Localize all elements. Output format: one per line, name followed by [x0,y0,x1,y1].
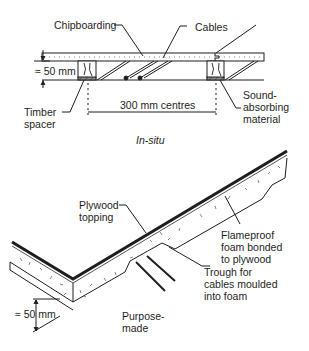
timber-spacer-left [78,61,96,78]
caption-purpose-line1: Purpose- [122,310,165,322]
cables-icon [124,61,172,80]
label-timber-spacer-line2: spacer [24,118,56,130]
label-foam-line3: to plywood [221,253,282,265]
label-centres: 300 mm centres [120,99,195,111]
label-sound-line2: absorbing [243,101,289,113]
label-trough-line3: into foam [204,290,278,302]
label-plywood-line2: topping [79,211,119,223]
label-sound-line3: material [243,113,289,125]
label-trough-line2: cables moulded [204,278,278,290]
label-timber-spacer-line1: Timber [24,106,56,118]
label-sound-absorbing: Sound- absorbing material [243,89,289,125]
label-timber-spacer: Timber spacer [24,106,56,130]
timber-spacer-right [207,61,224,78]
label-foam-line1: Flameproof [221,229,282,241]
label-cables: Cables [195,21,228,33]
label-foam-line2: foam bonded [221,241,282,253]
label-flameproof-foam: Flameproof foam bonded to plywood [221,229,282,265]
label-trough-line1: Trough for [204,266,278,278]
label-dimension-50mm-top: ≈ 50 mm [35,65,76,77]
label-trough: Trough for cables moulded into foam [204,266,278,302]
caption-in-situ: In-situ [136,134,165,146]
label-chipboarding: Chipboarding [54,19,116,31]
label-dimension-50mm-bottom: ≈ 50 mm [15,308,56,320]
label-plywood-line1: Plywood [79,199,119,211]
caption-purpose-line2: made [122,322,165,334]
label-plywood-topping: Plywood topping [79,199,119,223]
chipboarding-board [42,53,264,61]
label-sound-line1: Sound- [243,89,289,101]
caption-purpose-made: Purpose- made [122,310,165,334]
